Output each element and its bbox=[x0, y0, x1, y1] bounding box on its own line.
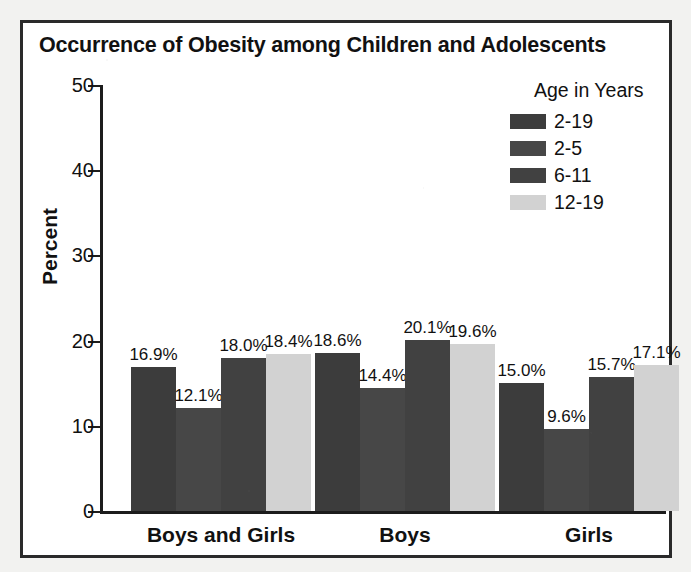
y-axis-title: Percent bbox=[38, 208, 62, 285]
legend-entry: 12-19 bbox=[510, 189, 660, 216]
y-axis-tick-label: 20 bbox=[72, 330, 94, 353]
bar: 16.9% bbox=[131, 367, 176, 511]
x-axis-category-label: Girls bbox=[565, 523, 613, 547]
bar-value-label: 20.1% bbox=[403, 318, 451, 338]
chart-legend: Age in Years 2-192-56-1112-19 bbox=[510, 79, 660, 216]
bar: 19.6% bbox=[450, 344, 495, 511]
bar: 18.4% bbox=[266, 354, 311, 511]
bar: 18.0% bbox=[221, 358, 266, 511]
y-axis-tick-label: 0 bbox=[83, 500, 94, 523]
bar: 14.4% bbox=[360, 388, 405, 511]
legend-label: 6-11 bbox=[554, 164, 592, 187]
legend-entry: 6-11 bbox=[510, 162, 660, 189]
bar-value-label: 18.6% bbox=[313, 331, 361, 351]
legend-swatch bbox=[510, 168, 546, 183]
bar-value-label: 19.6% bbox=[448, 322, 496, 342]
bar: 18.6% bbox=[315, 353, 360, 511]
bar-value-label: 15.0% bbox=[497, 361, 545, 381]
x-axis-category-label: Boys and Girls bbox=[147, 523, 295, 547]
legend-swatch bbox=[510, 195, 546, 210]
bar-value-label: 12.1% bbox=[174, 386, 222, 406]
y-axis-tick-label: 30 bbox=[72, 244, 94, 267]
bar-value-label: 16.9% bbox=[129, 345, 177, 365]
legend-entry: 2-5 bbox=[510, 135, 660, 162]
x-axis-line bbox=[100, 511, 666, 514]
y-axis-tick-label: 50 bbox=[72, 74, 94, 97]
legend-label: 2-5 bbox=[554, 137, 582, 160]
bar-value-label: 9.6% bbox=[547, 407, 586, 427]
bar: 12.1% bbox=[176, 408, 221, 511]
bar: 15.7% bbox=[589, 377, 634, 511]
legend-swatch bbox=[510, 114, 546, 129]
chart-figure-frame: Occurrence of Obesity among Children and… bbox=[20, 20, 672, 558]
bar-value-label: 18.4% bbox=[264, 332, 312, 352]
legend-entry: 2-19 bbox=[510, 108, 660, 135]
bar: 15.0% bbox=[499, 383, 544, 511]
bar-value-label: 15.7% bbox=[587, 355, 635, 375]
legend-swatch bbox=[510, 141, 546, 156]
x-axis-category-label: Boys bbox=[379, 523, 430, 547]
bar-value-label: 17.1% bbox=[632, 343, 680, 363]
bar-value-label: 18.0% bbox=[219, 336, 267, 356]
bar: 20.1% bbox=[405, 340, 450, 511]
y-axis-tick-label: 10 bbox=[72, 415, 94, 438]
bar-value-label: 14.4% bbox=[358, 366, 406, 386]
legend-entries: 2-192-56-1112-19 bbox=[510, 108, 660, 216]
bar: 17.1% bbox=[634, 365, 679, 511]
legend-label: 12-19 bbox=[554, 191, 604, 214]
legend-title: Age in Years bbox=[534, 79, 660, 102]
bar: 9.6% bbox=[544, 429, 589, 511]
legend-label: 2-19 bbox=[554, 110, 593, 133]
y-axis-tick-label: 40 bbox=[72, 159, 94, 182]
chart-title: Occurrence of Obesity among Children and… bbox=[39, 33, 606, 58]
